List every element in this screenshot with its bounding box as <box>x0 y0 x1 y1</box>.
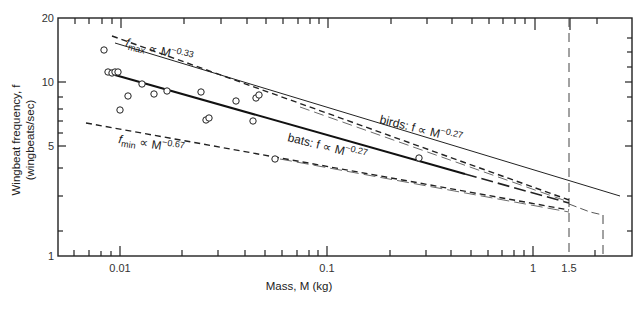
data-point <box>250 118 256 124</box>
fmax-annotation: fmax ∝ M−0.33 <box>124 33 195 67</box>
data-point <box>139 81 145 87</box>
y-axis-title-line1: Wingbeat frequency, f <box>10 84 22 196</box>
data-point <box>233 98 239 104</box>
birds-base: birds: f ∝ M <box>378 112 441 141</box>
x-tick-label-1: 1 <box>530 262 536 274</box>
data-point <box>206 115 212 121</box>
x-ticks-bottom <box>74 246 595 256</box>
fmin-sup: −0.67 <box>161 137 185 150</box>
wingbeat-chart: 20 10 5 1 0.01 0.1 1 1.5 Mass, M (kg) Wi… <box>0 0 644 309</box>
fmin-annotation: fmin ∝ M−0.67 <box>117 130 185 158</box>
bats-base: bats: f ∝ M <box>286 130 346 158</box>
data-point <box>151 91 157 97</box>
fmax-line <box>112 36 569 200</box>
data-point <box>256 92 262 98</box>
x-axis-title: Mass, M (kg) <box>266 280 333 292</box>
data-point <box>416 155 422 161</box>
x-ticks-top <box>75 18 597 30</box>
y-tick-label-5: 5 <box>48 140 54 152</box>
bats-extrapolation-line <box>465 174 569 203</box>
y-axis-title-line2: (wingbeats/sec) <box>24 100 36 181</box>
data-point <box>115 69 121 75</box>
data-point <box>117 107 123 113</box>
y-axis-title: Wingbeat frequency, f (wingbeats/sec) <box>10 84 36 196</box>
x-tick-label-0.1: 0.1 <box>319 262 334 274</box>
fmax-sup: −0.33 <box>170 45 195 60</box>
fmax-sub: max <box>127 42 146 56</box>
data-point <box>164 88 170 94</box>
birds-annotation: birds: f ∝ M−0.27 <box>378 110 464 146</box>
data-point <box>272 156 278 162</box>
y-tick-label-1: 1 <box>48 250 54 262</box>
fmin-mid: ∝ M <box>135 135 163 153</box>
fmax-mid: ∝ M <box>144 40 172 60</box>
fmin-sub: min <box>121 139 137 151</box>
y-tick-label-10: 10 <box>42 76 54 88</box>
data-point <box>101 47 107 53</box>
y-tick-label-20: 20 <box>42 12 54 24</box>
convergence-line <box>569 204 603 215</box>
data-point <box>125 93 131 99</box>
x-tick-label-0.01: 0.01 <box>109 262 130 274</box>
y-ticks <box>58 38 632 231</box>
data-point <box>198 89 204 95</box>
birds-sup: −0.27 <box>440 125 465 140</box>
bats-annotation: bats: f ∝ M−0.27 <box>286 128 369 163</box>
x-tick-label-1.5: 1.5 <box>561 262 576 274</box>
